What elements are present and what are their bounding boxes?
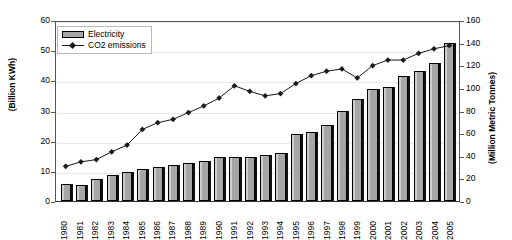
x-axis-tick-label: 2003 (415, 204, 424, 240)
y-axis-left-tick-label: 20 (26, 137, 50, 146)
bar (321, 125, 331, 201)
x-label-slot: 2002 (396, 204, 411, 240)
legend-item-co2-emissions: CO2 emissions (62, 41, 146, 50)
x-label-slot: 1996 (304, 204, 319, 240)
y-axis-right-tick-label: 120 (466, 61, 492, 70)
bar (76, 185, 86, 201)
bar-slot (150, 22, 165, 201)
x-axis-tick-label: 1988 (184, 204, 193, 240)
x-label-slot: 1981 (72, 204, 87, 240)
legend-item-electricity: Electricity (62, 30, 146, 39)
bar (291, 134, 301, 201)
y-axis-right-tick-mark (460, 44, 464, 45)
y-axis-left-tick-label: 10 (26, 167, 50, 176)
x-axis-tick-label: 2001 (384, 204, 393, 240)
bar (229, 157, 239, 201)
bar (153, 167, 163, 201)
y-axis-left-tick-label: 0 (26, 197, 50, 206)
bar-slot (442, 22, 457, 201)
x-label-slot: 2001 (381, 204, 396, 240)
x-axis-tick-label: 1998 (338, 204, 347, 240)
chart-legend: Electricity CO2 emissions (57, 26, 152, 54)
x-axis-tick-label: 1987 (168, 204, 177, 240)
bar (275, 153, 285, 201)
chart-container: (Billion KWh) (Million Metric Tonnes) 01… (0, 0, 512, 240)
bar (398, 76, 408, 201)
x-axis-tick-label: 1981 (76, 204, 85, 240)
y-axis-right-tick-mark (460, 202, 464, 203)
bar (91, 179, 101, 201)
bar-slot (426, 22, 441, 201)
bar (122, 172, 132, 201)
legend-label-electricity: Electricity (88, 30, 124, 39)
x-axis-tick-label: 2005 (446, 204, 455, 240)
bar-slot (257, 22, 272, 201)
bar-slot (319, 22, 334, 201)
x-axis-tick-label: 1993 (261, 204, 270, 240)
y-axis-left-tick-label: 40 (26, 76, 50, 85)
x-axis-labels: 1980198119821983198419851986198719881989… (55, 204, 460, 240)
bar (61, 184, 71, 201)
x-label-slot: 1991 (227, 204, 242, 240)
x-axis-tick-label: 1999 (353, 204, 362, 240)
y-axis-right-tick-mark (460, 89, 464, 90)
x-label-slot: 1998 (335, 204, 350, 240)
bar-slot (211, 22, 226, 201)
y-axis-right-tick-mark (460, 21, 464, 22)
x-label-slot: 2004 (427, 204, 442, 240)
y-axis-right-tick-label: 0 (466, 197, 492, 206)
y-axis-left-tick-mark (51, 202, 55, 203)
x-axis-tick-label: 2000 (369, 204, 378, 240)
bar-slot (227, 22, 242, 201)
x-label-slot: 2003 (412, 204, 427, 240)
y-axis-right-tick-label: 20 (466, 174, 492, 183)
x-label-slot: 1986 (150, 204, 165, 240)
x-label-slot: 1989 (196, 204, 211, 240)
x-axis-tick-label: 1994 (276, 204, 285, 240)
bar-slot (242, 22, 257, 201)
bar-slot (304, 22, 319, 201)
x-axis-tick-label: 1986 (153, 204, 162, 240)
x-axis-tick-label: 1984 (122, 204, 131, 240)
bar (429, 63, 439, 201)
bar (260, 155, 270, 201)
bar-slot (181, 22, 196, 201)
y-axis-left-tick-label: 60 (26, 16, 50, 25)
x-label-slot: 1990 (211, 204, 226, 240)
bar (107, 175, 117, 201)
bar (214, 157, 224, 201)
x-axis-tick-label: 1985 (138, 204, 147, 240)
x-label-slot: 1983 (103, 204, 118, 240)
bar (444, 43, 454, 201)
x-axis-tick-label: 1990 (215, 204, 224, 240)
bar (352, 99, 362, 201)
x-label-slot: 1987 (165, 204, 180, 240)
y-axis-right-tick-label: 100 (466, 84, 492, 93)
x-axis-tick-label: 2004 (431, 204, 440, 240)
x-label-slot: 1993 (257, 204, 272, 240)
bar (183, 163, 193, 201)
x-label-slot: 1982 (88, 204, 103, 240)
x-label-slot: 2000 (365, 204, 380, 240)
x-axis-tick-label: 1991 (230, 204, 239, 240)
y-axis-right-tick-label: 60 (466, 129, 492, 138)
y-axis-left-tick-label: 50 (26, 46, 50, 55)
bar-slot (165, 22, 180, 201)
x-label-slot: 1984 (119, 204, 134, 240)
x-label-slot: 1999 (350, 204, 365, 240)
x-label-slot: 1997 (319, 204, 334, 240)
bar-slot (288, 22, 303, 201)
bar-slot (196, 22, 211, 201)
x-label-slot: 1992 (242, 204, 257, 240)
bar (383, 87, 393, 201)
y-axis-right-tick-mark (460, 134, 464, 135)
y-axis-right-tick-label: 160 (466, 16, 492, 25)
bar (137, 169, 147, 201)
bar-slot (273, 22, 288, 201)
line-diamond-swatch-icon (62, 42, 84, 49)
x-axis-tick-label: 1996 (307, 204, 316, 240)
x-label-slot: 2005 (443, 204, 458, 240)
y-axis-right-tick-mark (460, 112, 464, 113)
x-label-slot: 1988 (180, 204, 195, 240)
bar-swatch-icon (62, 31, 84, 38)
